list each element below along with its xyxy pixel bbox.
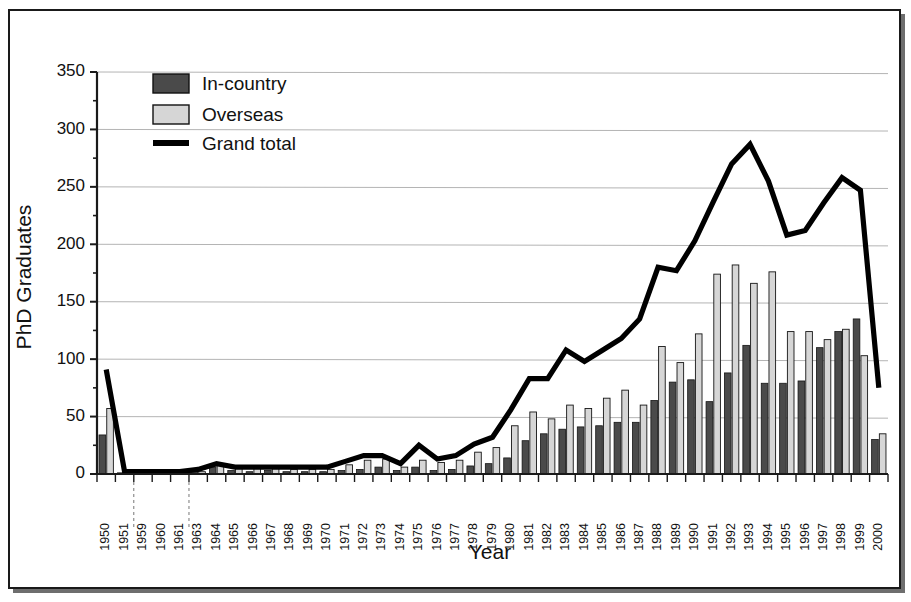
chart-canvas: 050100150200250300350 195019511959196019… [0, 0, 911, 602]
bar-overseas [530, 412, 537, 474]
bar-in-country [780, 383, 787, 474]
x-tick-label: 1981 [522, 523, 536, 551]
bar-overseas [640, 405, 647, 474]
bar-overseas [419, 460, 426, 474]
bar-overseas [567, 405, 574, 474]
x-tick-label: 1976 [430, 523, 444, 551]
x-tick-label: 1997 [816, 523, 830, 551]
phd-graduates-chart: 050100150200250300350 195019511959196019… [0, 0, 911, 602]
bar-overseas [787, 332, 794, 474]
bar-in-country [835, 332, 842, 474]
bar-in-country [614, 422, 621, 474]
bar-overseas [511, 426, 518, 474]
y-tick-label: 300 [57, 119, 85, 138]
bar-in-country [798, 381, 805, 474]
x-axis-title: Year [469, 540, 511, 563]
bar-in-country [706, 402, 713, 474]
x-tick-label: 1992 [724, 523, 738, 551]
x-tick-label: 1987 [632, 523, 646, 551]
bar-overseas [622, 390, 629, 474]
x-tick-label: 1964 [209, 523, 223, 551]
bar-overseas [383, 459, 390, 474]
bar-in-country [596, 426, 603, 474]
bar-overseas [861, 356, 868, 474]
bar-overseas [751, 283, 758, 474]
bar-overseas [677, 363, 684, 474]
x-tick-label: 1999 [853, 523, 867, 551]
legend-label-grand-total: Grand total [202, 133, 296, 154]
x-tick-label: 1984 [577, 523, 591, 551]
legend-swatch-overseas [153, 105, 189, 124]
legend-swatch-grand-total [153, 140, 189, 146]
y-axis-title: PhD Graduates [12, 205, 35, 350]
x-tick-label: 1974 [393, 523, 407, 551]
bar-in-country [816, 348, 823, 474]
x-tick-label: 1961 [172, 523, 186, 551]
bar-in-country [504, 458, 511, 474]
bar-in-country [99, 435, 106, 474]
y-tick-label: 250 [57, 176, 85, 195]
x-tick-label: 1972 [356, 523, 370, 551]
x-tick-label: 1968 [282, 523, 296, 551]
bar-overseas [548, 419, 555, 474]
x-tick-label: 1975 [411, 523, 425, 551]
bar-in-country [651, 400, 658, 474]
chart-legend: In-country Overseas Grand total [153, 73, 296, 154]
bar-in-country [761, 383, 768, 474]
bar-overseas [824, 340, 831, 474]
x-tick-label: 2000 [871, 523, 885, 551]
bar-overseas [659, 347, 666, 474]
x-tick-label: 1994 [761, 523, 775, 551]
bar-in-country [853, 319, 860, 474]
bar-in-country [872, 440, 879, 474]
x-tick-label: 1995 [779, 523, 793, 551]
bar-in-country [724, 373, 731, 474]
bar-overseas [438, 463, 445, 474]
y-tick-label: 350 [57, 61, 85, 80]
x-tick-label: 1988 [650, 523, 664, 551]
x-tick-label: 1993 [742, 523, 756, 551]
bar-overseas [843, 329, 850, 474]
x-tick-label: 1963 [190, 523, 204, 551]
x-tick-label: 1967 [264, 523, 278, 551]
x-tick-label: 1951 [117, 523, 131, 551]
bar-overseas [879, 434, 886, 474]
x-tick-label: 1971 [338, 523, 352, 551]
bar-overseas [493, 448, 500, 474]
x-tick-label: 1989 [669, 523, 683, 551]
bar-overseas [769, 272, 776, 474]
bar-overseas [585, 409, 592, 474]
legend-label-overseas: Overseas [202, 104, 283, 125]
bar-in-country [541, 434, 548, 474]
bar-in-country [559, 429, 566, 474]
bar-overseas [806, 332, 813, 474]
bar-in-country [743, 345, 750, 474]
bar-in-country [688, 380, 695, 474]
bar-overseas [714, 274, 721, 474]
x-tick-label: 1985 [595, 523, 609, 551]
bar-overseas [346, 465, 353, 474]
bar-series-group [99, 265, 886, 474]
legend-label-in-country: In-country [202, 73, 287, 94]
x-tick-label: 1950 [98, 523, 112, 551]
bar-overseas [603, 398, 610, 474]
x-tick-label: 1959 [135, 523, 149, 551]
bar-in-country [467, 466, 474, 474]
bar-overseas [456, 460, 463, 474]
x-tick-label: 1970 [319, 523, 333, 551]
x-tick-label: 1973 [374, 523, 388, 551]
x-tick-label: 1982 [540, 523, 554, 551]
x-tick-label: 1965 [227, 523, 241, 551]
x-tick-label: 1966 [246, 523, 260, 551]
x-tick-label: 1986 [614, 523, 628, 551]
bar-in-country [485, 464, 492, 474]
x-tick-label: 1991 [706, 523, 720, 551]
x-tick-label: 1998 [834, 523, 848, 551]
x-tick-label: 1960 [154, 523, 168, 551]
bar-overseas [695, 334, 702, 474]
y-tick-label: 0 [76, 463, 85, 482]
y-tick-label: 50 [66, 406, 85, 425]
bar-in-country [632, 422, 639, 474]
y-tick-label: 100 [57, 349, 85, 368]
y-tick-label: 150 [57, 291, 85, 310]
